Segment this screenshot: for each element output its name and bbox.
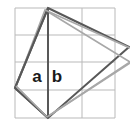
label-a: a	[32, 67, 42, 86]
light-diagonal-upper	[45, 10, 130, 48]
geometry-figure-container: ab	[0, 0, 130, 129]
label-b: b	[52, 67, 62, 86]
geometry-figure-svg: ab	[0, 0, 130, 129]
shapes-group	[15, 8, 130, 118]
light-chord-left-bottom	[16, 86, 47, 117]
